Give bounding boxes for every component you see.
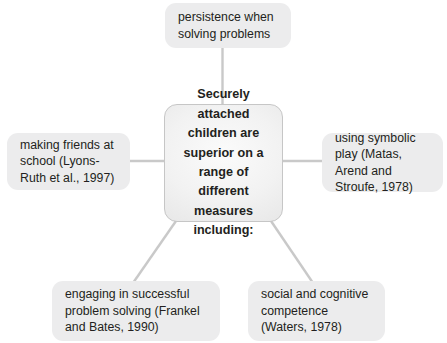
branch-node-bottom-left[interactable]: engaging in successful problem solving (… [52, 281, 220, 341]
connector-central-to-bottom-left [133, 221, 176, 283]
mind-map-diagram: persistence when solving problems making… [0, 0, 447, 343]
connector-central-to-bottom-right [271, 221, 313, 283]
central-node[interactable]: Securely attached children are superior … [164, 104, 283, 222]
branch-node-bottom-right[interactable]: social and cognitive competence (Waters,… [248, 281, 385, 341]
central-node-label: Securely attached children are superior … [174, 85, 273, 240]
branch-node-top-label: persistence when solving problems [178, 9, 279, 42]
branch-node-left[interactable]: making friends at school (Lyons-Ruth et … [7, 133, 130, 190]
branch-node-left-label: making friends at school (Lyons-Ruth et … [20, 137, 118, 187]
branch-node-bottom-right-label: social and cognitive competence (Waters,… [261, 286, 373, 336]
branch-node-right[interactable]: using symbolic play (Matas, Arend and St… [322, 133, 443, 192]
branch-node-right-label: using symbolic play (Matas, Arend and St… [335, 130, 431, 196]
branch-node-bottom-left-label: engaging in successful problem solving (… [65, 286, 208, 336]
branch-node-top[interactable]: persistence when solving problems [165, 3, 291, 48]
